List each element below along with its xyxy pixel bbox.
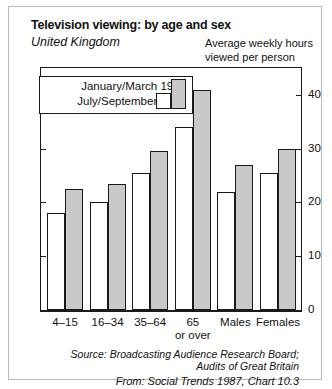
bar-Females-open [260, 173, 278, 310]
unit-line-1: Average weekly hours [205, 37, 332, 51]
axis-top-rule [40, 67, 302, 68]
y-tick-r-40 [296, 95, 301, 96]
x-axis-label-5: Females [243, 316, 313, 328]
x-axis-baseline [40, 310, 302, 312]
bar-4–15-shaded [65, 189, 83, 310]
bar-Males-shaded [235, 165, 253, 310]
bar-65-or-over-shaded [193, 90, 211, 310]
bar-Females-shaded [278, 149, 296, 310]
bar-Males-open [217, 192, 235, 310]
source-line-2: Audits of Great Britain [196, 360, 299, 372]
bar-35–64-open [132, 173, 150, 310]
bar-35–64-shaded [150, 151, 168, 310]
y-axis-label-0: 0 [308, 303, 314, 315]
y-axis-label-40: 40 [308, 88, 321, 100]
x-axis-sublabel-3: or over [158, 329, 228, 341]
y-tick-r-20 [296, 202, 301, 203]
y-tick-r-0 [296, 310, 301, 311]
y-tick-r-10 [296, 256, 301, 257]
bar-4–15-open [47, 213, 65, 310]
open-swatch [156, 93, 171, 109]
y-axis-label-10: 10 [308, 249, 321, 261]
y-axis-unit-label: Average weekly hours viewed per person [205, 37, 332, 64]
chart-legend: January/March 1986 July/September 1985 [39, 76, 193, 114]
chart-title: Television viewing: by age and sex [31, 18, 231, 32]
bar-16–34-open [90, 202, 108, 310]
y-tick-l-30 [41, 149, 46, 150]
y-tick-r-30 [296, 149, 301, 150]
source-line-3: From: Social Trends 1987, Chart 10.3 [116, 375, 299, 387]
y-tick-l-20 [41, 202, 46, 203]
bar-65-or-over-open [175, 127, 193, 310]
source-line-1: Source: Broadcasting Audience Research B… [71, 348, 299, 360]
y-axis-label-30: 30 [308, 142, 321, 154]
shaded-swatch [171, 79, 186, 109]
y-tick-l-0 [41, 310, 46, 311]
bar-16–34-shaded [108, 184, 126, 310]
y-axis-right [301, 67, 302, 311]
chart-subtitle: United Kingdom [31, 35, 120, 49]
chart-frame: Television viewing: by age and sex Unite… [8, 6, 322, 380]
y-tick-l-10 [41, 256, 46, 257]
y-axis-label-20: 20 [308, 195, 321, 207]
unit-line-2: viewed per person [205, 51, 332, 65]
